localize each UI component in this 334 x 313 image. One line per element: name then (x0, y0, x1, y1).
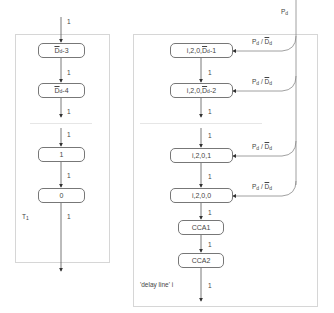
feed-rate-label: Pd / Dd (252, 78, 272, 86)
rate-label: 1 (67, 213, 71, 220)
rate-label: 1 (67, 18, 71, 25)
node-d-minus-4[interactable]: Dd-4 (38, 83, 85, 98)
rate-label: 1 (208, 209, 212, 216)
feed-rate-label: Pd / Dd (252, 38, 272, 46)
input-label-pd: Pd (281, 8, 288, 16)
rate-label: 1 (208, 241, 212, 248)
rate-label: 1 (208, 108, 212, 115)
node-i20-d-minus-2[interactable]: i,2,0,Dd-2 (170, 83, 233, 98)
node-d-minus-3[interactable]: Dd-3 (38, 43, 85, 58)
rate-label: 1 (208, 282, 212, 289)
node-i201[interactable]: i,2,0,1 (170, 148, 233, 163)
rate-label: 1 (208, 132, 212, 139)
panel-label-t1: T1 (22, 213, 29, 221)
rate-label: 1 (67, 69, 71, 76)
rate-label: 1 (67, 131, 71, 138)
rate-label: 1 (67, 108, 71, 115)
rate-label: 1 (208, 69, 212, 76)
rate-label: 1 (67, 172, 71, 179)
node-one[interactable]: 1 (38, 147, 85, 162)
feed-rate-label: Pd / Dd (252, 143, 272, 151)
node-zero[interactable]: 0 (38, 188, 85, 203)
left-gap-separator (30, 123, 92, 124)
node-cca1[interactable]: CCA1 (178, 220, 224, 235)
right-gap-separator (140, 123, 262, 124)
node-cca2[interactable]: CCA2 (178, 253, 224, 268)
node-i20-d-minus-1[interactable]: i,2,0,Dd-1 (170, 43, 233, 58)
rate-label: 1 (208, 173, 212, 180)
feed-rate-label: Pd / Dd (252, 183, 272, 191)
panel-label-delay-line: 'delay line' i (140, 281, 173, 288)
node-i200[interactable]: i,2,0,0 (170, 188, 233, 203)
